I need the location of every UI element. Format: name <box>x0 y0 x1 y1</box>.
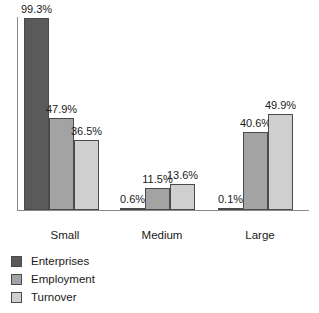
bar-group-small: 99.3% 47.9% 36.5% <box>17 0 113 210</box>
bar-wrap-large-enterprises: 0.1% <box>218 208 243 210</box>
legend-item-employment[interactable]: Employment <box>11 270 211 288</box>
bar-value-label: 49.9% <box>265 99 296 111</box>
legend-item-turnover[interactable]: Turnover <box>11 288 211 306</box>
bar-group-medium-bars: 0.6% 11.5% 13.6% <box>120 0 195 210</box>
bar-value-label: 40.6% <box>240 117 271 129</box>
bar-group-large-bars: 0.1% 40.6% 49.9% <box>218 0 293 210</box>
category-label-medium: Medium <box>113 228 211 242</box>
legend-swatch-icon <box>11 292 22 303</box>
bar-medium-enterprises[interactable] <box>120 208 145 210</box>
legend-item-label: Employment <box>31 272 95 286</box>
chart-legend: Enterprises Employment Turnover <box>11 252 211 306</box>
bar-large-turnover[interactable] <box>268 114 293 210</box>
legend-swatch-icon <box>11 256 22 267</box>
bar-wrap-medium-turnover: 13.6% <box>170 184 195 210</box>
legend-item-label: Enterprises <box>31 254 89 268</box>
bar-value-label: 99.3% <box>21 3 52 15</box>
bar-group-small-bars: 99.3% 47.9% 36.5% <box>24 0 99 210</box>
bar-medium-turnover[interactable] <box>170 184 195 210</box>
bar-wrap-medium-employment: 11.5% <box>145 188 170 210</box>
bar-wrap-medium-enterprises: 0.6% <box>120 208 145 210</box>
legend-swatch-icon <box>11 274 22 285</box>
bar-value-label: 47.9% <box>46 103 77 115</box>
bar-chart: 99.3% 47.9% 36.5% 0 <box>0 0 319 313</box>
bar-large-employment[interactable] <box>243 132 268 210</box>
bar-small-turnover[interactable] <box>74 140 99 210</box>
bar-value-label: 0.1% <box>218 193 243 205</box>
legend-item-enterprises[interactable]: Enterprises <box>11 252 211 270</box>
bar-group-large: 0.1% 40.6% 49.9% <box>211 0 309 210</box>
bar-wrap-large-turnover: 49.9% <box>268 114 293 210</box>
bar-value-label: 0.6% <box>120 193 145 205</box>
bar-value-label: 13.6% <box>167 169 198 181</box>
bar-large-enterprises[interactable] <box>218 208 243 210</box>
x-axis-line <box>17 210 309 211</box>
bar-wrap-large-employment: 40.6% <box>243 132 268 210</box>
bar-value-label: 36.5% <box>71 125 102 137</box>
category-axis-labels: Small Medium Large <box>17 228 309 246</box>
category-label-large: Large <box>211 228 309 242</box>
bar-group-medium: 0.6% 11.5% 13.6% <box>113 0 211 210</box>
legend-item-label: Turnover <box>31 290 77 304</box>
category-label-small: Small <box>17 228 113 242</box>
bar-wrap-small-turnover: 36.5% <box>74 140 99 210</box>
bar-groups: 99.3% 47.9% 36.5% 0 <box>17 0 309 210</box>
plot-area: 99.3% 47.9% 36.5% 0 <box>0 0 319 225</box>
bar-medium-employment[interactable] <box>145 188 170 210</box>
